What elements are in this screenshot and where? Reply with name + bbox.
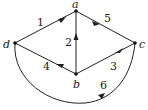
- edge-label-3: 3: [110, 60, 117, 73]
- vertex-d: [13, 41, 17, 45]
- edge-label-1: 1: [37, 16, 44, 29]
- vertex-b: [74, 72, 78, 76]
- vertex-label-c: c: [139, 38, 145, 51]
- vertex-label-a: a: [72, 0, 79, 11]
- vertex-c: [133, 41, 137, 45]
- arrow-icon-edge-2: [74, 33, 79, 40]
- directed-graph: a b c d 1 2 3 4 5 6: [0, 0, 148, 110]
- edge-label-2: 2: [65, 36, 72, 49]
- edge-label-6: 6: [100, 79, 107, 92]
- vertex-label-b: b: [73, 78, 80, 91]
- arrow-icon-edge-6: [98, 93, 105, 99]
- edge-label-4: 4: [43, 60, 50, 73]
- edge-label-5: 5: [104, 12, 111, 25]
- vertex-label-d: d: [3, 38, 10, 51]
- edge-3-c-to-b: [76, 43, 135, 74]
